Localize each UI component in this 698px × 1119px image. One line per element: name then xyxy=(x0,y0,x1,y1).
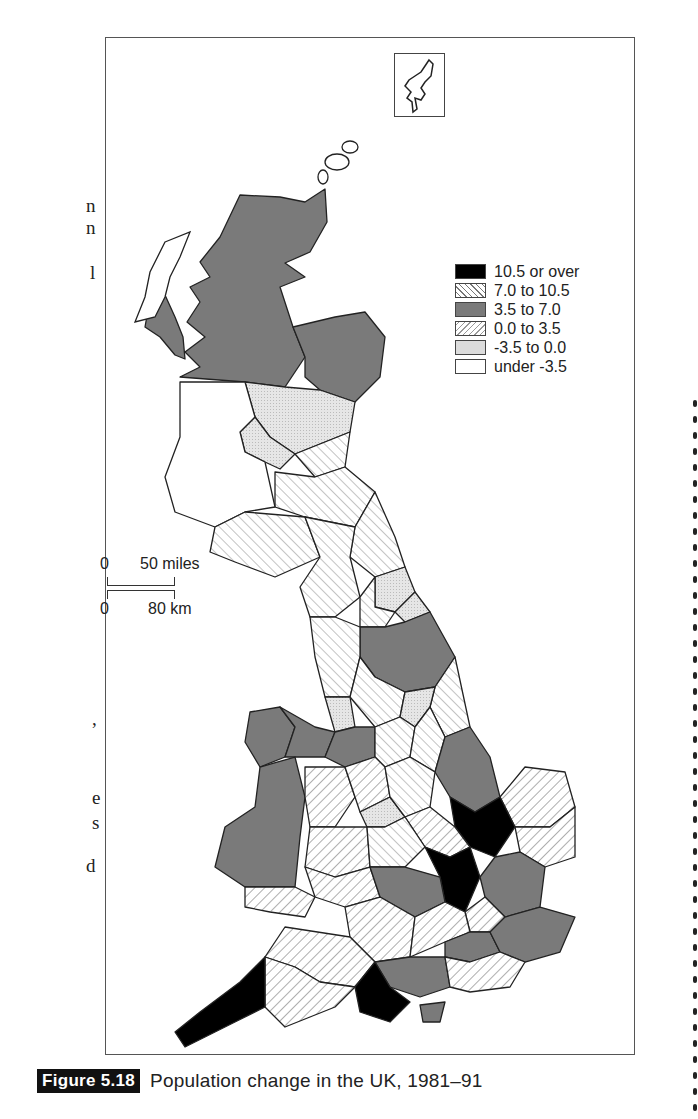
text-fragment: l xyxy=(90,262,95,284)
region-merseyside xyxy=(325,697,355,732)
uk-choropleth-map xyxy=(105,37,635,1055)
region-cornwall xyxy=(175,957,265,1047)
legend-label: 0.0 to 3.5 xyxy=(494,320,561,338)
text-fragment: d xyxy=(86,855,96,877)
legend-label: -3.5 to 0.0 xyxy=(494,339,566,357)
legend-item: 0.0 to 3.5 xyxy=(455,319,579,338)
region-dyfed-powys xyxy=(215,757,305,887)
scale-miles-bar xyxy=(107,577,175,586)
scale-km-zero: 0 xyxy=(100,600,109,618)
region-lincolnshire xyxy=(435,727,500,812)
scale-bar: 0 50 miles 0 80 km xyxy=(100,555,240,635)
legend-label: 3.5 to 7.0 xyxy=(494,301,561,319)
text-fragment: e xyxy=(92,787,100,809)
legend-swatch-backslash-hatch xyxy=(455,283,486,298)
shetland-outline xyxy=(395,54,444,116)
legend-label: 10.5 or over xyxy=(494,263,579,281)
scale-miles-zero: 0 xyxy=(100,555,109,573)
legend-swatch-solid-black xyxy=(455,264,486,279)
text-fragment: n xyxy=(86,217,96,239)
text-fragment: , xyxy=(92,708,97,730)
legend-item: 7.0 to 10.5 xyxy=(455,281,579,300)
text-fragment: s xyxy=(92,812,99,834)
scale-km-label: 80 km xyxy=(148,600,192,618)
shetland-inset xyxy=(394,53,445,117)
legend-item: -3.5 to 0.0 xyxy=(455,338,579,357)
legend-item: 10.5 or over xyxy=(455,262,579,281)
region-isle-of-wight xyxy=(420,1002,445,1022)
legend-item: under -3.5 xyxy=(455,357,579,376)
dotted-margin-rule xyxy=(692,0,698,1119)
text-fragment: n xyxy=(86,195,96,217)
legend-label: 7.0 to 10.5 xyxy=(494,282,570,300)
legend-swatch-solid-grey xyxy=(455,302,486,317)
cropped-body-text: n n l , e s d xyxy=(0,0,100,1119)
legend-item: 3.5 to 7.0 xyxy=(455,300,579,319)
legend-swatch-dotted-light-grey xyxy=(455,340,486,355)
map-legend: 10.5 or over 7.0 to 10.5 3.5 to 7.0 0.0 … xyxy=(455,262,579,376)
figure-caption: Figure 5.18 Population change in the UK,… xyxy=(37,1069,483,1093)
legend-swatch-slash-hatch xyxy=(455,321,486,336)
figure-label: Figure 5.18 xyxy=(37,1069,140,1093)
figure-title: Population change in the UK, 1981–91 xyxy=(150,1070,483,1092)
legend-swatch-blank xyxy=(455,359,486,374)
region-orkney xyxy=(325,154,349,170)
legend-label: under -3.5 xyxy=(494,358,567,376)
scale-miles-label: 50 miles xyxy=(140,555,200,573)
scale-km-bar xyxy=(107,590,175,599)
region-gwent-glam xyxy=(245,887,315,917)
